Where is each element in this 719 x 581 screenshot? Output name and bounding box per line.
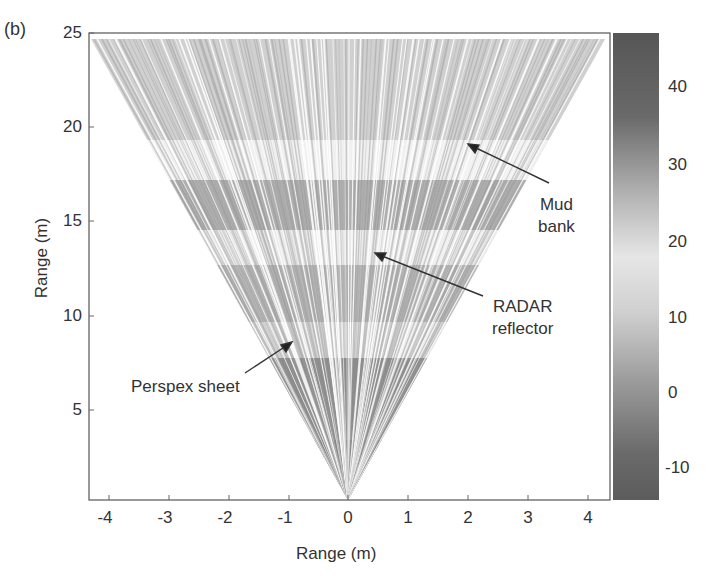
x-tick-neg4: -4	[85, 508, 125, 528]
y-tick-25: 25	[42, 23, 82, 43]
colorbar-tick-10: 10	[668, 308, 687, 328]
y-axis-title: Range (m)	[32, 218, 52, 298]
y-tick-5: 5	[42, 400, 82, 420]
annotation-mud-bank: Mud bank	[538, 194, 575, 238]
x-tick-1: 1	[388, 508, 428, 528]
y-tick-20: 20	[42, 117, 82, 137]
y-tick-10: 10	[42, 306, 82, 326]
x-tick-2: 2	[448, 508, 488, 528]
x-tick-0: 0	[328, 508, 368, 528]
fan-image	[89, 33, 610, 500]
annotation-radar-reflector: RADAR reflector	[492, 296, 553, 340]
colorbar-tick-neg10: -10	[665, 458, 690, 478]
colorbar-tick-30: 30	[668, 155, 687, 175]
x-tick-neg2: -2	[205, 508, 245, 528]
x-tick-neg3: -3	[145, 508, 185, 528]
colorbar-tick-40: 40	[668, 77, 687, 97]
x-axis-title: Range (m)	[296, 544, 376, 564]
annotation-perspex-sheet: Perspex sheet	[131, 376, 240, 398]
sector-scan-plot	[0, 0, 719, 581]
x-tick-neg1: -1	[265, 508, 305, 528]
x-tick-3: 3	[508, 508, 548, 528]
x-tick-4: 4	[568, 508, 608, 528]
colorbar-tick-20: 20	[668, 232, 687, 252]
colorbar	[613, 33, 659, 500]
colorbar-tick-0: 0	[668, 383, 677, 403]
